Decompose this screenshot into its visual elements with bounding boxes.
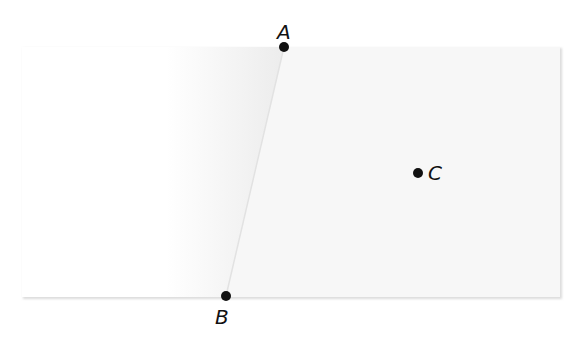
label-b: B	[215, 305, 229, 329]
label-a: A	[275, 20, 291, 44]
diagram-canvas: A B C	[0, 0, 579, 345]
point-b	[221, 291, 231, 301]
point-c	[413, 168, 423, 178]
folded-paper-diagram: A B C	[0, 0, 579, 345]
label-c: C	[428, 161, 442, 185]
